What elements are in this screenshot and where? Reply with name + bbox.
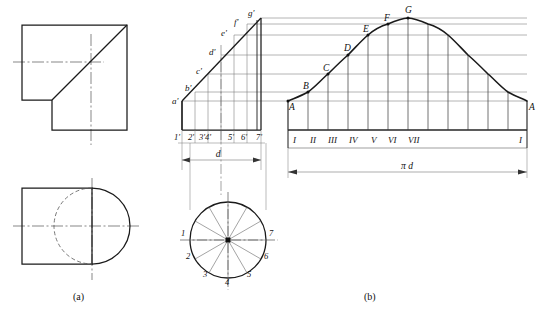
top-view-cut-diagonal [52, 25, 127, 100]
base-tick-6: 6' [241, 132, 247, 142]
caption-b: (b) [364, 291, 376, 303]
orthographic-bottom-view [13, 178, 140, 280]
point-label-c-prime: c' [196, 66, 203, 76]
point-label-d-prime: d' [209, 47, 217, 57]
curve-label-F: F [383, 13, 390, 23]
point-label-a-prime: a' [172, 96, 180, 106]
roman-tick-VII: VII [408, 135, 420, 145]
curve-point-D [347, 54, 350, 57]
curve-label-A-left: A [288, 102, 295, 112]
development-curve [288, 18, 527, 101]
dimension-d-label: d [216, 149, 221, 159]
engineering-drawing-canvas: (a) [0, 0, 549, 319]
roman-tick-V: V [371, 135, 378, 145]
curve-point-G [407, 17, 410, 20]
point-label-e-prime: e' [221, 28, 228, 38]
division-label-5: 5 [247, 269, 251, 279]
roman-tick-I-last: I [518, 135, 523, 145]
roman-tick-III: III [327, 135, 338, 145]
roman-tick-IV: IV [348, 135, 359, 145]
dimension-pi-d-arrow-left [288, 170, 297, 175]
roman-tick-II: II [309, 135, 317, 145]
division-label-1: 1 [181, 228, 185, 238]
orthographic-top-view [13, 25, 127, 145]
dimension-pi-d: π d [288, 161, 527, 175]
developed-surface-diagram: A B C D E F G A I II III IV V VI VII I [287, 5, 536, 178]
front-view-truncated-cylinder: a' b' c' d' e' f' g' 1' 2' 3'4' 5' 6' 7' [172, 8, 266, 210]
curve-label-C: C [323, 63, 330, 73]
dimension-d-arrow-right [253, 158, 261, 163]
division-label-7: 7 [269, 228, 274, 238]
dimension-d: d [182, 149, 261, 163]
base-tick-7: 7' [256, 132, 262, 142]
dimension-pi-d-label: π d [401, 161, 413, 171]
point-label-f-prime: f' [234, 17, 240, 27]
division-circle-bottom: 1 2 3 4 5 6 7 [180, 192, 278, 290]
curve-label-E: E [362, 24, 369, 34]
roman-tick-VI: VI [388, 135, 397, 145]
base-tick-1: 1' [174, 132, 180, 142]
division-label-3: 3 [202, 269, 207, 279]
division-label-6: 6 [264, 251, 269, 261]
division-label-2: 2 [186, 251, 191, 261]
drawing-sheet: (a) [0, 0, 549, 319]
roman-tick-I: I [292, 135, 297, 145]
point-label-b-prime: b' [185, 83, 193, 93]
curve-label-A-right: A [528, 102, 535, 112]
point-label-g-prime: g' [248, 8, 256, 18]
curve-label-B: B [303, 81, 309, 91]
base-tick-2: 2' [188, 132, 194, 142]
curve-label-D: D [343, 43, 351, 53]
curve-label-G: G [405, 5, 412, 15]
caption-a: (a) [73, 291, 84, 303]
base-tick-34: 3'4' [198, 132, 211, 142]
circle-center-marker [226, 238, 231, 243]
dimension-pi-d-arrow-right [518, 170, 527, 175]
dimension-d-arrow-left [182, 158, 190, 163]
base-tick-5: 5' [228, 132, 234, 142]
